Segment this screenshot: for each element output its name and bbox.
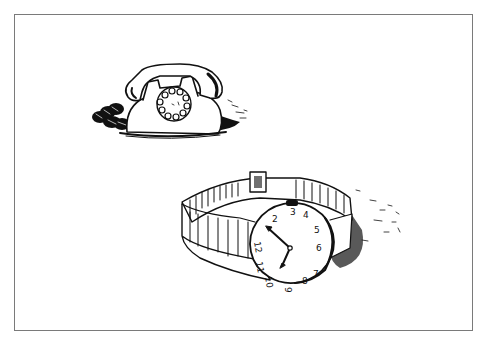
svg-text:12: 12 [252,241,264,254]
svg-text:3: 3 [290,207,296,217]
svg-text:4: 4 [303,210,309,220]
svg-text:10: 10 [263,276,275,289]
svg-text:8: 8 [302,276,308,286]
svg-text:5: 5 [314,225,320,235]
telephone-icon [92,64,247,138]
svg-text:2: 2 [272,214,278,224]
svg-text:11: 11 [254,261,266,274]
svg-text:6: 6 [316,243,322,253]
illustration-canvas: 12 11 10 9 8 7 6 5 4 3 2 [0,0,487,343]
svg-text:9: 9 [283,287,293,293]
svg-text:7: 7 [313,269,319,279]
wristwatch-icon: 12 11 10 9 8 7 6 5 4 3 2 [182,172,400,293]
